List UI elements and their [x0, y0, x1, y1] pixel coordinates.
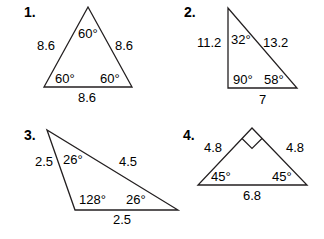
angle-bottom-right-label: 45°: [272, 169, 292, 184]
problem-4: 4. 4.8 4.8 6.8 45° 45°: [183, 127, 307, 203]
angle-bottom-left-label: 128°: [79, 192, 106, 207]
side-bottom-label: 6.8: [243, 188, 261, 203]
side-top-label: 4.5: [119, 154, 137, 169]
problem-number: 4.: [183, 127, 195, 143]
angle-right-label: 26°: [126, 192, 146, 207]
side-right-label: 8.6: [115, 38, 133, 53]
angle-bottom-left-label: 45°: [211, 169, 231, 184]
angle-bottom-left-label: 60°: [55, 71, 75, 86]
side-right-label: 4.8: [286, 140, 304, 155]
side-bottom-label: 7: [259, 92, 266, 107]
angle-top-left-label: 26°: [63, 152, 83, 167]
side-left-label: 8.6: [37, 38, 55, 53]
angle-bottom-right-label: 60°: [100, 71, 120, 86]
angle-top-label: 60°: [78, 26, 98, 41]
side-left-label: 2.5: [35, 154, 53, 169]
triangle-3: [47, 130, 178, 210]
problem-number: 1.: [24, 4, 36, 20]
problem-3: 3. 2.5 4.5 2.5 26° 128° 26°: [24, 127, 178, 227]
side-hypotenuse-label: 13.2: [263, 35, 288, 50]
side-left-label: 11.2: [197, 35, 221, 50]
angle-top-label: 32°: [231, 32, 251, 47]
problem-number: 2.: [184, 4, 196, 20]
angle-bottom-left-label: 90°: [233, 72, 253, 87]
side-left-label: 4.8: [204, 140, 222, 155]
problem-2: 2. 11.2 13.2 7 32° 90° 58°: [184, 4, 297, 107]
triangles-diagram: 1. 8.6 8.6 8.6 60° 60° 60° 2. 11.2 13.2 …: [0, 0, 324, 239]
side-bottom-label: 2.5: [113, 212, 131, 227]
right-angle-marker-icon: [242, 139, 262, 149]
problem-number: 3.: [24, 127, 36, 143]
problem-1: 1. 8.6 8.6 8.6 60° 60° 60°: [24, 4, 133, 105]
side-bottom-label: 8.6: [78, 90, 96, 105]
angle-bottom-right-label: 58°: [264, 72, 284, 87]
